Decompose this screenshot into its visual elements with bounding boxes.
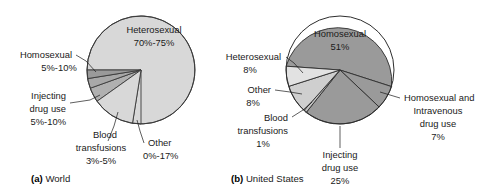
- label-us-blood: Blood: [264, 112, 288, 123]
- label-us-blood-value: 1%: [256, 138, 270, 149]
- caption-world-text: World: [45, 173, 70, 184]
- label-us-injecting-value: 25%: [331, 175, 350, 186]
- caption-world: (a) World: [31, 173, 70, 184]
- label-us-homo-iv-3: drug use: [420, 118, 456, 129]
- label-world-other-value: 0%-17%: [143, 150, 178, 161]
- caption-us-tag: (b): [231, 173, 243, 184]
- pie-chart-united-states: Homosexual 51%: [275, 16, 400, 148]
- label-world-homosexual: Homosexual: [20, 49, 72, 60]
- label-world-injecting-2: drug use: [30, 103, 66, 114]
- charts-svg: Heterosexual 70%-75% Homosexual 5%-10% I…: [0, 0, 481, 192]
- label-world-blood-2: transfusions: [76, 142, 127, 153]
- label-us-injecting: Injecting: [323, 149, 358, 160]
- pie-chart-world: Heterosexual 70%-75%: [70, 16, 195, 143]
- label-us-blood-2: transfusions: [237, 125, 288, 136]
- label-us-heterosexual-value: 8%: [243, 64, 257, 75]
- label-world-heterosexual: Heterosexual: [126, 24, 181, 35]
- label-world-other: Other: [148, 137, 171, 148]
- label-world-blood: Blood: [93, 129, 117, 140]
- label-us-heterosexual: Heterosexual: [226, 51, 281, 62]
- figure-two-pie-charts: Heterosexual 70%-75% Homosexual 5%-10% I…: [0, 0, 481, 192]
- label-us-other-value: 8%: [246, 97, 260, 108]
- label-us-other: Other: [248, 84, 271, 95]
- label-us-homosexual-value: 51%: [331, 41, 350, 52]
- label-world-heterosexual-value: 70%-75%: [134, 37, 175, 48]
- caption-us-text: United States: [246, 173, 304, 184]
- label-world-injecting-value: 5%-10%: [31, 116, 66, 127]
- label-us-injecting-2: drug use: [322, 162, 358, 173]
- label-world-blood-value: 3%-5%: [86, 155, 116, 166]
- label-world-injecting: Injecting: [31, 90, 66, 101]
- label-us-homo-iv: Homosexual and: [404, 92, 474, 103]
- label-us-homo-iv-2: Intravenous: [414, 105, 463, 116]
- caption-united-states: (b) United States: [231, 173, 304, 184]
- caption-world-tag: (a): [31, 173, 43, 184]
- label-us-homo-iv-value: 7%: [431, 131, 445, 142]
- label-us-homosexual: Homosexual: [314, 28, 366, 39]
- label-world-homosexual-value: 5%-10%: [41, 62, 76, 73]
